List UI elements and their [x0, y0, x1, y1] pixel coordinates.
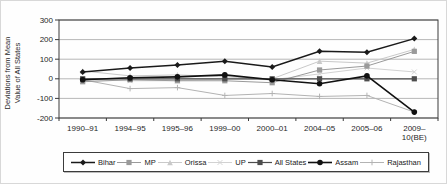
- legend-label: Assam: [335, 158, 358, 167]
- legend-item-up: UP: [208, 158, 245, 167]
- circle-icon: [308, 158, 332, 167]
- triangle-icon: [158, 158, 182, 167]
- x-tick-label: 2000–01: [257, 124, 289, 133]
- y-tick-label: -200: [37, 114, 54, 123]
- legend-label: UP: [235, 158, 245, 167]
- legend-item-bihar: Bihar: [71, 158, 116, 167]
- legend-item-all-states: All States: [248, 158, 307, 167]
- x-tick-label: 1994–95: [114, 124, 146, 133]
- legend: BiharMPOrissaUPAll StatesAssamRajasthan: [63, 152, 429, 172]
- x-tick-label: 2004–05: [304, 124, 336, 133]
- legend-label: All States: [275, 158, 307, 167]
- legend-item-assam: Assam: [308, 158, 358, 167]
- y-axis: 3002001000-100-200: [37, 16, 59, 123]
- square-icon: [248, 158, 272, 167]
- y-tick-label: -100: [37, 94, 54, 103]
- y-axis-title-line1: Deviations from Mean: [3, 37, 13, 110]
- figure: 3002001000-100-2001990–911994–951995–961…: [0, 0, 447, 184]
- x-tick-label: 2009–: [403, 124, 426, 133]
- x-tick-label: 1999–00: [209, 124, 241, 133]
- series-rajasthan: [80, 77, 417, 115]
- plus-icon: [360, 158, 384, 167]
- series-bihar: [80, 36, 418, 75]
- x-tick-label: 10(BE): [402, 133, 427, 142]
- diamond-icon: [71, 158, 95, 167]
- x-axis: 1990–911994–951995–961999–002000–012004–…: [59, 118, 438, 142]
- y-axis-title-line2: Value of All States: [13, 43, 23, 103]
- y-tick-label: 100: [40, 55, 54, 64]
- legend-label: Bihar: [98, 158, 116, 167]
- y-tick-label: 200: [40, 35, 54, 44]
- y-tick-label: 0: [49, 74, 54, 83]
- y-tick-label: 300: [40, 16, 54, 25]
- square-icon: [117, 158, 141, 167]
- legend-label: Orissa: [185, 158, 207, 167]
- y-axis-title: Deviations from Mean Value of All States: [1, 9, 25, 137]
- legend-item-orissa: Orissa: [158, 158, 207, 167]
- x-tick-label: 1995–96: [162, 124, 194, 133]
- x-tick-label: 1990–91: [67, 124, 99, 133]
- legend-label: Rajasthan: [387, 158, 421, 167]
- x-tick-label: 2005–06: [351, 124, 383, 133]
- line-chart: 3002001000-100-2001990–911994–951995–961…: [1, 1, 447, 151]
- legend-item-mp: MP: [117, 158, 155, 167]
- legend-label: MP: [144, 158, 155, 167]
- x-icon: [208, 158, 232, 167]
- legend-item-rajasthan: Rajasthan: [360, 158, 421, 167]
